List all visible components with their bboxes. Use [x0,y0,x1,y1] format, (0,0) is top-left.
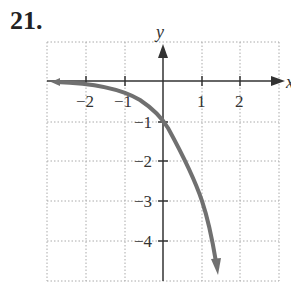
curve-left-arrow-icon [51,78,60,86]
chart-figure: 21. y x −2 −1 1 2 −1 −2 −3 −4 [0,0,291,288]
curve-down-arrow-icon [211,258,221,275]
x-arrow-icon [271,76,285,86]
svg-text:−2: −2 [76,92,94,111]
svg-text:−2: −2 [134,152,152,171]
svg-text:−3: −3 [134,192,152,211]
svg-text:1: 1 [197,92,206,111]
svg-text:2: 2 [235,92,244,111]
svg-text:−1: −1 [134,113,152,132]
y-arrow-icon [158,44,168,58]
y-axis-label: y [154,22,164,42]
x-axis-label: x [285,72,291,92]
svg-text:−4: −4 [134,232,153,251]
axes [47,56,275,281]
graph: y x −2 −1 1 2 −1 −2 −3 −4 [0,0,291,288]
